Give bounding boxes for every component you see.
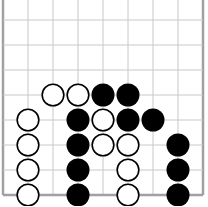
black-stone [117,109,140,132]
black-stone [67,134,90,157]
white-stone [92,109,114,131]
white-stone [117,134,139,156]
white-stone [17,159,39,181]
black-stone [167,159,190,182]
white-stone [117,159,139,181]
white-stone [67,84,89,106]
black-stone [167,134,190,157]
black-stone [142,109,165,132]
white-stone [17,184,39,206]
black-stone [67,184,90,207]
white-stone [42,84,64,106]
black-stone [167,184,190,207]
black-stone [92,84,115,107]
black-stone [67,159,90,182]
white-stone [17,109,39,131]
white-stone [17,134,39,156]
white-stone [92,134,114,156]
go-board [0,0,208,206]
white-stone [117,184,139,206]
black-stone [67,109,90,132]
black-stone [117,84,140,107]
